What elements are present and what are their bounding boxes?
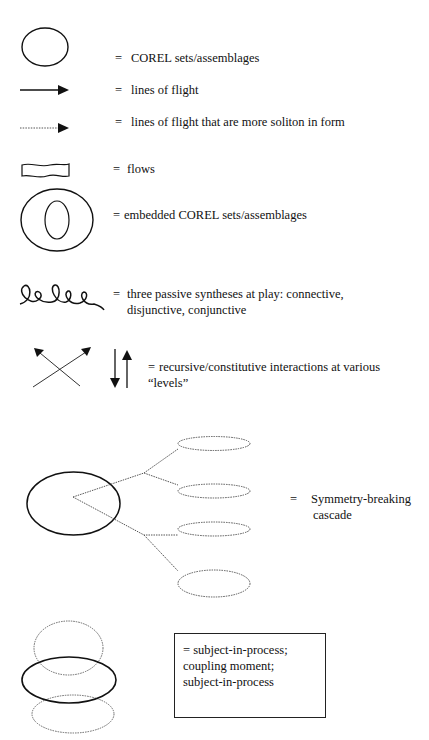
equals-sign: = — [113, 161, 127, 177]
label-text: lines of flight that are more soliton in… — [131, 115, 345, 129]
label-text: three passive syntheses at play: connect… — [127, 287, 344, 301]
dotted-arrow-icon — [20, 123, 69, 133]
legend-label-embedded: =embedded COREL sets/assemblages — [113, 207, 307, 223]
legend-label-lines-of-flight: =lines of flight — [115, 82, 198, 98]
legend-label-syntheses: =three passive syntheses at play: connec… — [113, 286, 344, 318]
box-line-2: coupling moment; — [183, 658, 317, 674]
stacked-ellipses-icon — [22, 621, 116, 733]
label-text: Symmetry-breaking — [311, 492, 411, 506]
legend-label-cascade: =Symmetry-breaking cascade — [290, 491, 411, 523]
ellipse-icon — [22, 28, 68, 66]
legend-label-flows: =flows — [113, 161, 155, 177]
subject-in-process-box: = subject-in-process; coupling moment; s… — [174, 633, 326, 718]
equals-sign: = — [115, 114, 131, 130]
wavy-rectangle-icon — [22, 164, 69, 177]
equals-sign: = — [183, 643, 190, 657]
box-line-1: = subject-in-process; — [183, 642, 317, 658]
nested-ellipse-icon — [21, 189, 93, 251]
legend-label-soliton: =lines of flight that are more soliton i… — [115, 114, 345, 130]
equals-sign: = — [290, 491, 311, 507]
solid-arrow-icon — [20, 85, 69, 95]
crossed-arrows-icon — [33, 347, 91, 387]
label-text: embedded COREL sets/assemblages — [124, 208, 307, 222]
cascade-icon — [27, 437, 250, 598]
label-text: lines of flight — [131, 83, 198, 97]
equals-sign: = — [115, 82, 131, 98]
label-text: COREL sets/assemblages — [131, 51, 259, 65]
label-text: recursive/constitutive interactions at v… — [159, 360, 380, 374]
vertical-arrows-icon — [110, 349, 132, 388]
equals-sign: = — [113, 286, 127, 302]
loops-icon — [20, 285, 104, 310]
box-line-3: subject-in-process — [183, 674, 317, 690]
equals-sign: = — [115, 50, 131, 66]
label-text: flows — [127, 162, 155, 176]
legend-label-recursive: =recursive/constitutive interactions at … — [148, 359, 380, 391]
legend-label-corel: =COREL sets/assemblages — [115, 50, 259, 66]
equals-sign: = — [113, 207, 124, 223]
label-text-line2: disjunctive, conjunctive — [127, 303, 246, 317]
label-text-line2: “levels” — [148, 376, 188, 390]
label-text-line2: cascade — [313, 508, 352, 522]
box-text: subject-in-process; — [193, 643, 287, 657]
equals-sign: = — [148, 359, 159, 375]
